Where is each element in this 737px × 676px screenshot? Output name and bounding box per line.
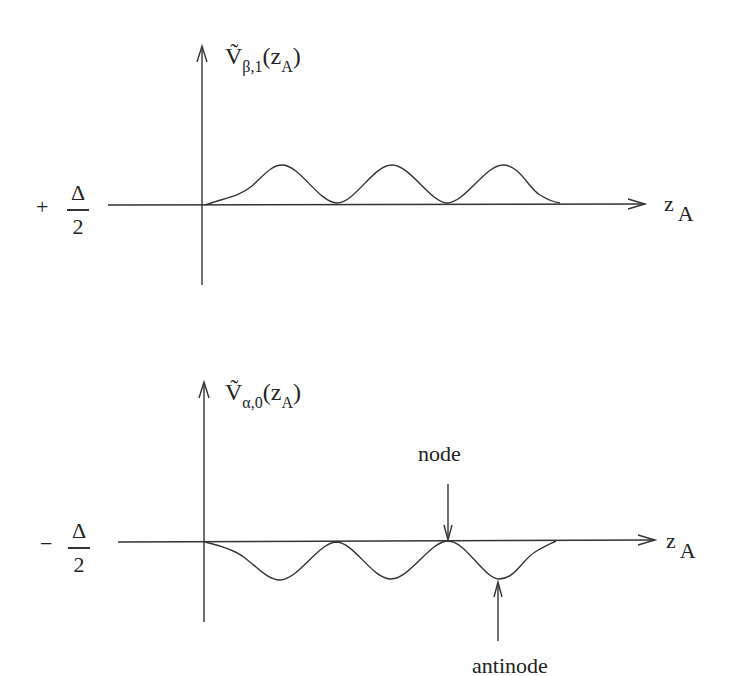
upper-wave-curve xyxy=(205,165,560,205)
lower-function-label: Ṽα,0(zA) xyxy=(225,380,301,404)
function-arg: (z xyxy=(263,379,282,405)
fraction-bar xyxy=(68,547,90,549)
lower-level-sign: − xyxy=(40,533,52,555)
upper-level-sign: + xyxy=(36,196,48,218)
lower-level-fraction: Δ 2 xyxy=(68,520,90,576)
diagram-canvas xyxy=(0,0,737,676)
upper-x-axis-label: zA xyxy=(664,193,690,215)
fraction-numerator: Δ xyxy=(72,518,86,543)
fraction-denominator: 2 xyxy=(74,552,85,577)
antinode-label: antinode xyxy=(472,655,548,676)
upper-level-fraction: Δ 2 xyxy=(67,182,89,238)
function-arg-subscript: A xyxy=(281,394,293,411)
node-label: node xyxy=(418,443,461,465)
function-arg-close: ) xyxy=(293,379,301,405)
function-symbol: Ṽ xyxy=(225,379,242,405)
upper-x-axis xyxy=(108,204,645,205)
axis-variable: z xyxy=(666,528,676,553)
lower-wave-curve xyxy=(205,541,556,580)
axis-subscript: A xyxy=(678,201,694,226)
lower-x-axis-label: zA xyxy=(666,530,692,552)
function-subscript: β,1 xyxy=(242,58,262,75)
fraction-bar xyxy=(67,209,89,211)
function-arg-subscript: A xyxy=(281,58,293,75)
function-arg-close: ) xyxy=(293,43,301,69)
axis-subscript: A xyxy=(680,538,696,563)
function-arg: (z xyxy=(262,43,281,69)
function-symbol: Ṽ xyxy=(225,43,242,69)
lower-x-axis xyxy=(118,540,655,542)
axis-variable: z xyxy=(664,191,674,216)
fraction-numerator: Δ xyxy=(71,180,85,205)
function-subscript: α,0 xyxy=(242,394,262,411)
upper-function-label: Ṽβ,1(zA) xyxy=(225,44,301,68)
fraction-denominator: 2 xyxy=(73,214,84,239)
